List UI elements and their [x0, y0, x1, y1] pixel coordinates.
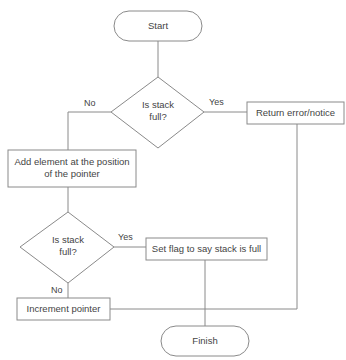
- decision1-label-line1: Is stack: [121, 99, 195, 111]
- decision1-label: Is stack full?: [121, 99, 195, 124]
- return-error-label: Return error/notice: [247, 107, 344, 119]
- add-element-label: Add element at the position of the point…: [8, 156, 136, 181]
- add-element-label-line1: Add element at the position: [8, 156, 136, 168]
- decision2-label: Is stack full?: [31, 234, 105, 259]
- decision1-yes-label: Yes: [209, 97, 224, 109]
- increment-label: Increment pointer: [17, 303, 110, 315]
- decision2-label-line1: Is stack: [31, 234, 105, 246]
- set-flag-label: Set flag to say stack is full: [146, 243, 267, 255]
- decision1-no-label: No: [84, 98, 96, 110]
- connector-return-error-down: [110, 124, 297, 309]
- start-label: Start: [114, 20, 202, 32]
- finish-label: Finish: [161, 335, 249, 347]
- add-element-label-line2: of the pointer: [8, 168, 136, 180]
- decision2-yes-label: Yes: [118, 232, 133, 244]
- decision2-no-label: No: [51, 285, 63, 297]
- decision2-label-line2: full?: [31, 246, 105, 258]
- connector-decision1-no: [68, 112, 111, 150]
- decision1-label-line2: full?: [121, 111, 195, 123]
